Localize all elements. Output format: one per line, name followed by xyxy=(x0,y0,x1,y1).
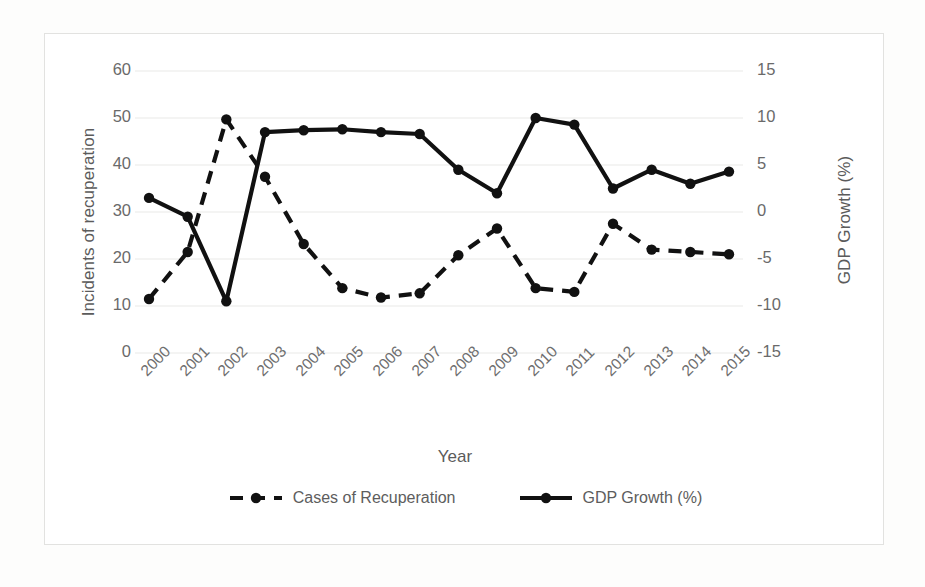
legend-swatch-dashed xyxy=(228,490,284,506)
data-point xyxy=(414,288,424,298)
data-point xyxy=(569,287,579,297)
y-right-tick-label: -10 xyxy=(757,295,811,314)
data-point xyxy=(298,239,308,249)
gridlines xyxy=(135,71,743,353)
chart-figure: Incidents of recuperation GDP Growth (%)… xyxy=(0,0,925,587)
y-right-tick-label: 5 xyxy=(757,154,811,173)
data-point xyxy=(685,179,695,189)
data-point xyxy=(144,193,154,203)
data-point xyxy=(724,166,734,176)
data-point xyxy=(530,113,540,123)
legend-label: GDP Growth (%) xyxy=(583,489,703,507)
data-point xyxy=(144,294,154,304)
y-left-tick-label: 10 xyxy=(77,295,131,314)
data-point xyxy=(646,244,656,254)
legend-item[interactable]: GDP Growth (%) xyxy=(518,489,703,507)
data-point xyxy=(414,129,424,139)
data-point xyxy=(376,127,386,137)
y-left-tick-label: 0 xyxy=(77,342,131,361)
data-point xyxy=(608,183,618,193)
legend-label: Cases of Recuperation xyxy=(293,489,456,507)
y-left-tick-label: 60 xyxy=(77,60,131,79)
data-point xyxy=(492,223,502,233)
x-axis-title: Year xyxy=(365,447,545,467)
legend-item[interactable]: Cases of Recuperation xyxy=(228,489,456,507)
legend-swatch-solid xyxy=(518,490,574,506)
plot-area: Incidents of recuperation GDP Growth (%)… xyxy=(44,33,884,545)
y-left-tick-label: 40 xyxy=(77,154,131,173)
data-point xyxy=(685,247,695,257)
data-point xyxy=(337,283,347,293)
data-point xyxy=(260,172,270,182)
y-right-tick-label: -15 xyxy=(757,342,811,361)
y-left-tick-label: 20 xyxy=(77,248,131,267)
data-point xyxy=(221,296,231,306)
data-point xyxy=(453,250,463,260)
data-point xyxy=(182,247,192,257)
data-point xyxy=(182,212,192,222)
data-point xyxy=(646,165,656,175)
data-point xyxy=(724,249,734,259)
y-right-tick-label: 0 xyxy=(757,201,811,220)
data-point xyxy=(298,125,308,135)
data-point xyxy=(260,127,270,137)
data-point xyxy=(453,165,463,175)
series-line-0 xyxy=(149,119,729,299)
y-axis-right-title: GDP Growth (%) xyxy=(835,100,855,340)
data-point xyxy=(492,188,502,198)
data-point xyxy=(569,119,579,129)
data-point xyxy=(337,124,347,134)
data-point xyxy=(221,114,231,124)
data-point xyxy=(530,283,540,293)
y-left-tick-label: 50 xyxy=(77,107,131,126)
y-right-tick-label: 15 xyxy=(757,60,811,79)
y-right-tick-label: 10 xyxy=(757,107,811,126)
series-layer xyxy=(144,113,734,307)
y-right-tick-label: -5 xyxy=(757,248,811,267)
chart-legend: Cases of RecuperationGDP Growth (%) xyxy=(45,489,885,507)
data-point xyxy=(608,219,618,229)
y-left-tick-label: 30 xyxy=(77,201,131,220)
data-point xyxy=(376,292,386,302)
